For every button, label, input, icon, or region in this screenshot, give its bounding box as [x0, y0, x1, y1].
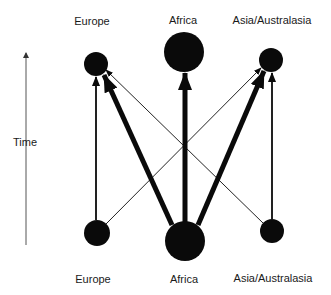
bottom-label-africa: Africa [170, 273, 198, 285]
node-africa-top [164, 32, 204, 72]
migration-diagram: Europe Africa Asia/Australasia Time Euro… [0, 0, 331, 295]
node-asia-bottom [260, 219, 284, 243]
time-axis-label: Time [13, 136, 37, 148]
node-europe-top [84, 52, 108, 76]
node-asia-top [259, 48, 283, 72]
edge-africa-to-europe [104, 75, 172, 225]
edge-africa-to-asia [198, 71, 264, 225]
node-africa-bottom [165, 221, 205, 261]
diagram-canvas [0, 0, 331, 295]
bottom-label-asia: Asia/Australasia [234, 272, 313, 284]
top-label-africa: Africa [169, 14, 197, 26]
bottom-label-europe: Europe [75, 273, 110, 285]
top-label-europe: Europe [74, 15, 109, 27]
top-label-asia: Asia/Australasia [233, 14, 312, 26]
node-europe-bottom [84, 220, 110, 246]
